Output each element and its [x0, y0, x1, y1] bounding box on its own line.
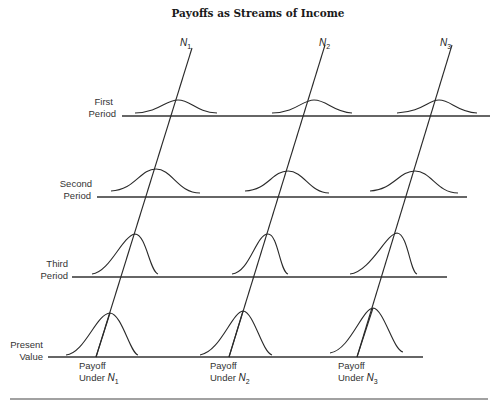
distribution-curve-pv-n3 — [330, 308, 403, 353]
svg-text:Under N1: Under N1 — [79, 372, 119, 385]
distribution-curve-third-n3 — [350, 233, 417, 274]
pv-connector-n3 — [357, 308, 373, 357]
svg-text:Payoff: Payoff — [79, 360, 106, 371]
svg-text:Value: Value — [19, 351, 43, 362]
payoff-label-n2: Payoff Under N2 — [210, 360, 250, 385]
distribution-curve-first-n3 — [397, 100, 477, 113]
distribution-curve-second-n1 — [111, 169, 200, 193]
distribution-curve-first-n1 — [135, 100, 217, 113]
svg-text:Payoff: Payoff — [338, 360, 365, 371]
distribution-curve-third-n2 — [232, 234, 288, 274]
payoff-label-n3: Payoff Under N3 — [338, 360, 378, 385]
svg-text:First: First — [95, 96, 114, 107]
svg-text:Payoff: Payoff — [210, 360, 237, 371]
svg-text:Second: Second — [60, 178, 92, 189]
distribution-curve-first-n2 — [272, 100, 352, 113]
stream-label-n3: N3 — [440, 37, 451, 50]
svg-text:Present: Present — [10, 339, 43, 350]
period-label-first: First Period — [89, 96, 116, 119]
period-label-second: Second Period — [60, 178, 92, 201]
svg-text:Period: Period — [41, 270, 68, 281]
svg-text:Period: Period — [89, 108, 116, 119]
svg-text:Period: Period — [64, 190, 91, 201]
svg-text:Under N3: Under N3 — [338, 372, 378, 385]
period-label-third: Third Period — [41, 258, 68, 281]
distribution-curve-second-n3 — [370, 171, 458, 193]
stream-line-n3 — [357, 45, 452, 357]
stream-label-n1: N1 — [180, 37, 191, 50]
payoff-label-n1: Payoff Under N1 — [79, 360, 119, 385]
figure-title: Payoffs as Streams of Income — [171, 7, 344, 19]
stream-line-n2 — [229, 45, 325, 357]
pv-connector-n2 — [229, 311, 243, 357]
pv-connector-n1 — [96, 313, 110, 357]
distribution-curve-pv-n1 — [66, 313, 138, 355]
distribution-curve-second-n2 — [245, 171, 329, 193]
svg-text:Under N2: Under N2 — [210, 372, 250, 385]
distribution-curve-third-n1 — [92, 234, 158, 274]
period-label-present-value: Present Value — [10, 339, 43, 362]
svg-text:Third: Third — [46, 258, 68, 269]
payoff-streams-diagram: Payoffs as Streams of Income N1 N2 N3 Fi… — [0, 0, 503, 406]
stream-line-n1 — [96, 48, 192, 357]
